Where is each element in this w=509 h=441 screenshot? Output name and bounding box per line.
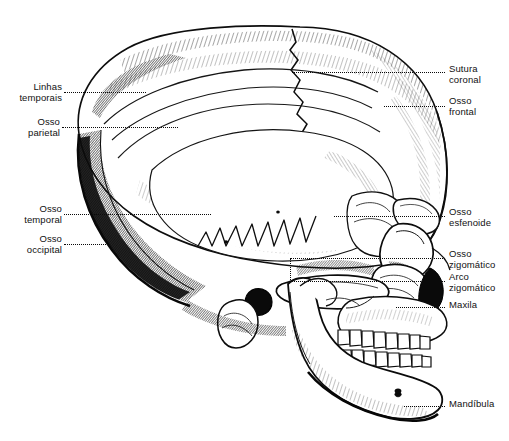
label-osso-zigomatico: Osso zigomático [449,249,509,270]
label-osso-esfenoide: Osso esfenoide [449,207,509,228]
label-linhas-temporais: Linhas temporais [4,82,62,103]
leader-osso-parietal [62,127,178,128]
leader-maxila [396,307,445,308]
leader-osso-temporal [64,214,211,215]
label-osso-parietal: Osso parietal [4,117,60,138]
leader-sutura-coronal [292,72,445,73]
nasal-bone [432,248,450,270]
label-mandibula: Mandíbula [449,399,509,410]
label-osso-temporal: Osso temporal [4,204,62,225]
leader-osso-zigomatico [358,258,445,259]
mental-foramen-dot [395,389,402,394]
label-osso-frontal: Osso frontal [449,96,507,117]
leader-mandibula [404,406,445,407]
leader-arco-zigomatico-upper [290,258,358,259]
skull-anatomy-figure: Linhas temporais Osso parietal Osso temp… [0,0,509,441]
leader-osso-frontal [384,106,445,107]
label-arco-zigomatico: Arco zigomático [449,272,509,293]
parietal-foramen-dot [224,240,228,244]
leader-osso-esfenoide [334,216,445,217]
leader-arco-zigomatico [290,281,445,282]
temporal-foramen-dot [276,211,280,214]
leader-osso-occipital [64,244,106,245]
skull-illustration [0,0,509,441]
skull-outline-group [70,26,450,421]
label-osso-occipital: Osso occipital [4,234,62,255]
label-sutura-coronal: Sutura coronal [449,64,507,85]
leader-arco-zigomatico-elbow [290,258,291,282]
label-maxila: Maxila [449,300,509,311]
leader-linhas-temporais [64,92,146,93]
